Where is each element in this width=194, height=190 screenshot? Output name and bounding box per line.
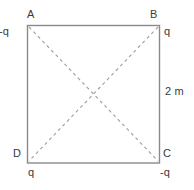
charge-label-d: q [28,167,34,178]
vertex-label-d: D [13,148,21,159]
vertex-label-b: B [150,9,158,20]
vertex-label-c: C [163,148,171,159]
charge-label-b: q [164,26,170,37]
charge-label-a: -q [0,26,9,37]
charge-square-diagram: A B C D -q q -q q 2 m [0,0,194,190]
charge-label-c: -q [160,167,170,178]
side-length-label: 2 m [165,86,184,97]
vertex-label-a: A [27,9,35,20]
